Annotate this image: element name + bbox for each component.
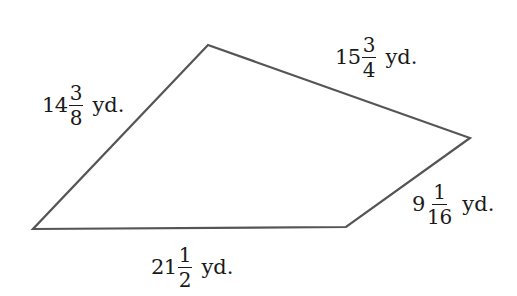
quadrilateral-diagram: 14 3 8 yd. 15 3 4 yd. 9 1 16 yd. 21 1 2 …: [0, 0, 517, 296]
fraction: 1 2: [178, 245, 193, 290]
unit: yd.: [201, 257, 233, 278]
quadrilateral-shape: [0, 0, 517, 296]
whole-number: 21: [151, 257, 177, 278]
unit: yd.: [462, 194, 494, 215]
numerator: 1: [178, 245, 193, 268]
side-label-bottom: 21 1 2 yd.: [151, 245, 233, 290]
whole-number: 9: [412, 194, 425, 215]
side-label-left: 14 3 8 yd.: [42, 83, 124, 128]
fraction: 3 8: [69, 83, 84, 128]
denominator: 16: [426, 205, 453, 227]
denominator: 8: [69, 106, 84, 128]
fraction: 1 16: [426, 182, 453, 227]
unit: yd.: [92, 95, 124, 116]
numerator: 1: [432, 182, 447, 205]
denominator: 4: [362, 58, 377, 80]
denominator: 2: [178, 268, 193, 290]
numerator: 3: [362, 35, 377, 58]
unit: yd.: [385, 47, 417, 68]
side-label-top-right: 15 3 4 yd.: [335, 35, 417, 80]
side-label-lower-right: 9 1 16 yd.: [412, 182, 494, 227]
whole-number: 14: [42, 95, 68, 116]
numerator: 3: [69, 83, 84, 106]
whole-number: 15: [335, 47, 361, 68]
fraction: 3 4: [362, 35, 377, 80]
